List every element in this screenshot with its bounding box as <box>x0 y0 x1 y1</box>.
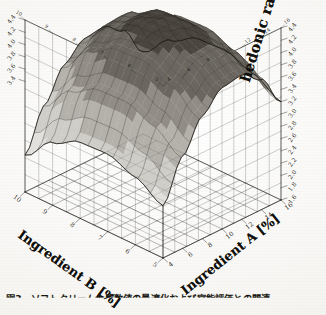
x-tick-label: 10 <box>224 230 235 241</box>
y-tick-label: 9 <box>41 207 49 216</box>
z-tick-label-left: 3.4 <box>5 74 17 86</box>
z-tick-label-left: 3.6 <box>5 62 17 74</box>
y-tick-label-top: 10 <box>15 9 24 18</box>
z-tick-label: 4.0 <box>286 45 298 57</box>
z-tick-label: 2.2 <box>286 156 298 168</box>
z-tick-label: 2.6 <box>286 131 298 143</box>
y-tick-label: 7 <box>96 234 104 243</box>
figure-container: 1.61.82.02.22.42.62.83.03.23.43.63.84.04… <box>0 0 326 315</box>
z-tick-label-left: 4.4 <box>5 13 17 25</box>
z-tick-label: 2.4 <box>286 144 298 156</box>
z-tick-label-left: 3.8 <box>5 50 17 62</box>
x-tick-label: 4 <box>167 260 175 269</box>
z-tick-label-left: 4.2 <box>5 25 17 37</box>
z-tick-label: 3.0 <box>286 107 298 119</box>
figure-caption-text: 図3 ソフトクリーム食感数値の最適化および官能評価との関連 <box>6 292 320 305</box>
x-tick-label: 8 <box>206 241 214 250</box>
x-tick-label: 6 <box>186 250 194 259</box>
figure-caption: 図3 ソフトクリーム食感数値の最適化および官能評価との関連 <box>0 292 326 315</box>
y-tick-label: 6 <box>124 247 132 256</box>
z-tick-label: 3.6 <box>286 70 298 82</box>
z-tick-label-left: 4.0 <box>5 37 17 49</box>
z-tick-label: 2.0 <box>286 168 298 180</box>
y-tick-label-top: 8 <box>71 36 77 43</box>
z-tick-label: 3.4 <box>286 82 298 94</box>
z-tick-label: 1.8 <box>286 181 298 193</box>
z-tick-label: 4.2 <box>286 33 298 45</box>
y-tick-label-top: 9 <box>44 23 50 30</box>
y-tick-label: 5 <box>151 260 159 269</box>
surface-plot: 1.61.82.02.22.42.62.83.03.23.43.63.84.04… <box>0 0 326 292</box>
z-tick-label: 3.2 <box>286 95 298 107</box>
y-tick-label: 8 <box>68 221 76 230</box>
z-tick-label: 3.8 <box>286 58 298 70</box>
y-tick-label: 10 <box>12 193 23 204</box>
z-tick-label: 2.8 <box>286 119 298 131</box>
